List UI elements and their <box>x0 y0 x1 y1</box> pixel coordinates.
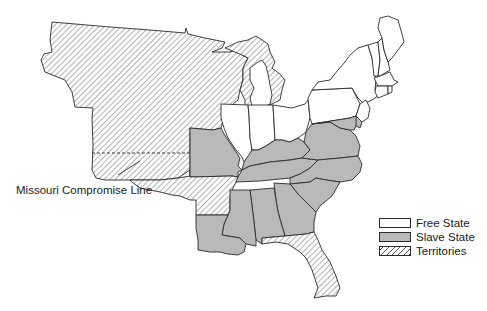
missouri-compromise-label: Missouri Compromise Line <box>16 184 152 196</box>
region-florida-territory <box>262 232 340 298</box>
legend-item-territories: Territories <box>379 244 475 258</box>
region-rhode-island <box>388 86 392 94</box>
region-connecticut <box>375 86 388 98</box>
map-canvas <box>0 0 487 311</box>
legend-swatch-slave <box>379 232 411 242</box>
legend-label: Slave State <box>416 231 475 243</box>
map-legend: Free State Slave State Territories <box>379 216 475 258</box>
legend-item-free: Free State <box>379 216 475 230</box>
legend-swatch-territories <box>379 246 411 256</box>
legend-swatch-free <box>379 218 411 228</box>
region-ohio <box>273 100 310 142</box>
legend-label: Free State <box>416 217 470 229</box>
legend-label: Territories <box>416 245 466 257</box>
legend-item-slave: Slave State <box>379 230 475 244</box>
